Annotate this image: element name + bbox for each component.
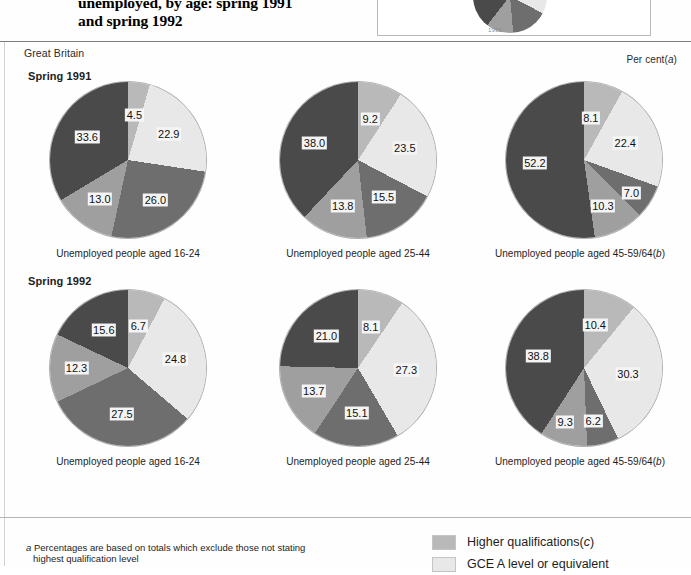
pie-caption: Unemployed people aged 25-44	[248, 456, 468, 467]
pie-slice-value-label: 15.6	[92, 324, 115, 336]
pie-slice-value-label: 10.4	[584, 319, 607, 331]
legend-label: Higher qualifications(c)	[467, 535, 594, 549]
pie-slice-value-label: 8.1	[582, 112, 599, 124]
pie-chart-1991-25-44: Unemployed people aged 25-44 9.223.515.5…	[248, 82, 468, 282]
pie-slice-value-label: 27.5	[110, 408, 133, 420]
pie-caption: Unemployed people aged 16-24	[18, 248, 238, 259]
pie-caption: Unemployed people aged 45-59/64(b)	[470, 456, 690, 467]
pie-slice-value-label: 13.7	[302, 385, 325, 397]
legend-label-prefix: Higher qualifications(	[467, 535, 584, 549]
pie-chart-1992-45-64: Unemployed people aged 45-59/64(b) 10.43…	[470, 290, 690, 490]
pie-slice-value-label: 12.3	[65, 362, 88, 374]
pie-slice-value-label: 13.0	[88, 193, 111, 205]
pie-chart-1992-16-24: Unemployed people aged 16-24 6.724.827.5…	[18, 290, 238, 490]
legend-item-higher-qualifications[interactable]: Higher qualifications(c)	[432, 531, 682, 553]
season-label-1991: Spring 1991	[28, 70, 91, 82]
geography-label: Great Britain	[24, 47, 84, 59]
legend-swatch-icon	[432, 535, 456, 550]
pie-slice-value-label: 23.5	[393, 142, 416, 154]
pie-slice-value-label: 10.3	[591, 200, 614, 212]
legend-label-suffix: )	[590, 535, 594, 549]
legend-swatch-icon	[432, 557, 456, 572]
pie-slices	[50, 82, 206, 238]
pie-slice-value-label: 27.3	[395, 364, 418, 376]
footnote-a: a Percentages are based on totals which …	[26, 542, 356, 564]
footnote-a-text: Percentages are based on totals which ex…	[34, 542, 305, 553]
caption-prefix: Unemployed people aged 45-59/64(	[495, 456, 656, 467]
page-title: unemployed, by age: spring 1991 and spri…	[78, 0, 358, 30]
pie-slice-value-label: 30.3	[616, 368, 639, 380]
footnote-a-text-cont: highest qualification level	[26, 553, 139, 564]
legend-item-gce-a-level[interactable]: GCE A level or equivalent	[432, 553, 682, 575]
inset-year-label: 1992	[488, 27, 502, 33]
left-frame-line	[4, 42, 5, 566]
pie-slice-value-label: 33.6	[76, 131, 99, 143]
page-title-line-2: and spring 1992	[78, 12, 358, 30]
pie-slice-value-label: 26.0	[144, 194, 167, 206]
units-suffix: )	[674, 54, 677, 65]
footer-rule	[0, 517, 691, 518]
pie-caption: Unemployed people aged 25-44	[248, 248, 468, 259]
pie-slice-value-label: 9.3	[556, 416, 573, 428]
units-label: Per cent(a)	[626, 54, 677, 65]
caption-prefix: Unemployed people aged 45-59/64(	[495, 248, 656, 259]
pie-slice-value-label: 38.0	[303, 137, 326, 149]
pie-chart-1991-45-64: Unemployed people aged 45-59/64(b) 8.122…	[470, 82, 690, 282]
pie-chart-1992-25-44: Unemployed people aged 25-44 8.127.315.1…	[248, 290, 468, 490]
pie-slice-value-label: 6.2	[585, 415, 602, 427]
pie-caption: Unemployed people aged 16-24	[18, 456, 238, 467]
caption-suffix: )	[662, 248, 665, 259]
pie-slice-value-label: 15.1	[345, 407, 368, 419]
pie-slice-value-label: 24.8	[164, 353, 187, 365]
header-rule	[0, 41, 691, 42]
footnote-a-marker: a	[26, 542, 31, 553]
pie-slice-value-label: 38.8	[526, 350, 549, 362]
units-prefix: Per cent(	[626, 54, 667, 65]
pie-slice-value-label: 52.2	[523, 157, 546, 169]
pie-slice-value-label: 7.0	[623, 187, 640, 199]
legend-label: GCE A level or equivalent	[467, 557, 609, 571]
pie-caption: Unemployed people aged 45-59/64(b)	[470, 248, 690, 259]
caption-suffix: )	[662, 456, 665, 467]
inset-panel: 1992	[377, 0, 651, 36]
pie-slice-value-label: 22.4	[614, 137, 637, 149]
pie-slice-value-label: 4.5	[126, 109, 143, 121]
pie-chart-1991-16-24: Unemployed people aged 16-24 4.522.926.0…	[18, 82, 238, 282]
pie-slice-value-label: 6.7	[130, 320, 147, 332]
pie-slice-value-label: 8.1	[362, 321, 379, 333]
pie-slice-value-label: 9.2	[362, 113, 379, 125]
pie-slice-value-label: 21.0	[315, 330, 338, 342]
pie-slices	[280, 82, 436, 238]
pie-slice-value-label: 13.8	[331, 200, 354, 212]
pie-slice-value-label: 15.5	[372, 191, 395, 203]
legend: Higher qualifications(c) GCE A level or …	[432, 531, 682, 575]
inset-pie-chart	[473, 0, 547, 33]
pie-slice-value-label: 22.9	[157, 128, 180, 140]
page-title-line-1: unemployed, by age: spring 1991	[78, 0, 358, 12]
